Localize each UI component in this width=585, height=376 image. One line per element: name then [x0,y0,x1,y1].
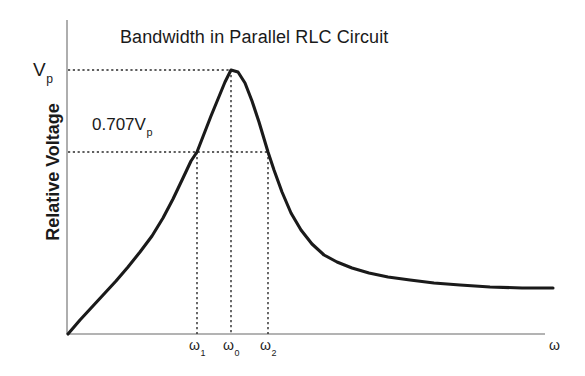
half-power-voltage-label: 0.707Vp [92,116,152,136]
peak-voltage-label: Vp [33,60,52,83]
x-tick-label-omega1-subscript: 1 [200,348,205,358]
chart-title: Bandwidth in Parallel RLC Circuit [120,28,388,46]
x-tick-label-omega0-text: ω [223,337,234,353]
peak-voltage-label-text: V [33,59,46,80]
x-tick-label-omega0: ω0 [223,338,239,356]
plot-canvas [0,0,585,376]
half-power-voltage-label-subscript: p [146,126,152,138]
resonance-response-curve [68,70,553,334]
half-power-voltage-label-text: 0.707V [92,115,146,134]
peak-voltage-label-subscript: p [46,72,53,86]
x-tick-label-omega1: ω1 [189,338,205,356]
x-tick-label-omega2: ω2 [260,338,276,356]
x-tick-label-omega1-text: ω [189,337,200,353]
y-axis-label: Relative Voltage [44,92,62,252]
x-tick-label-omega2-text: ω [260,337,271,353]
x-tick-label-omega0-subscript: 0 [234,348,239,358]
x-tick-label-omega2-subscript: 2 [271,348,276,358]
chart-figure: Bandwidth in Parallel RLC Circuit Relati… [0,0,585,376]
x-axis-label: ω [549,338,560,352]
